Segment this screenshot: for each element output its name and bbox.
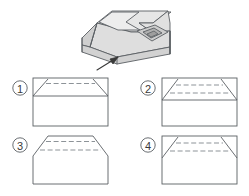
- option-1-outline: [33, 78, 108, 126]
- option-3-drawing: [33, 136, 108, 184]
- option-3[interactable]: 3: [13, 136, 108, 184]
- isometric-object: [82, 11, 171, 64]
- option-4-drawing: [162, 136, 237, 184]
- option-1-label: 1: [17, 83, 23, 95]
- option-2-drawing: [162, 78, 237, 126]
- option-2-label: 2: [145, 83, 151, 95]
- projection-quiz-figure: 1 2: [0, 0, 249, 196]
- option-3-outline: [33, 136, 108, 184]
- option-1-drawing: [33, 78, 108, 126]
- figure-svg: 1 2: [0, 0, 249, 196]
- option-3-label: 3: [17, 140, 23, 152]
- option-1[interactable]: 1: [13, 78, 108, 126]
- option-4-label: 4: [145, 140, 151, 152]
- option-4[interactable]: 4: [141, 136, 237, 184]
- option-2[interactable]: 2: [141, 78, 237, 126]
